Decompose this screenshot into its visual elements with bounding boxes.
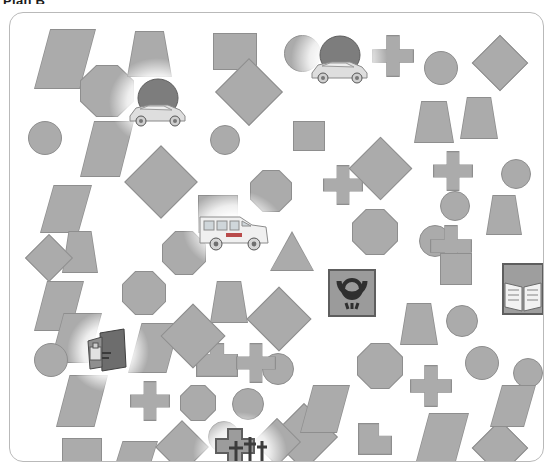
shape-circle (424, 51, 458, 85)
shape-circle (440, 191, 470, 221)
shape-octagon (122, 271, 166, 315)
shape-diamond (25, 234, 73, 282)
shape-cross (130, 381, 170, 421)
shape-field-panel (9, 12, 544, 462)
page-title: Plan B (3, 0, 45, 4)
post-horn-icon (326, 267, 378, 319)
target-ambulance[interactable] (183, 190, 285, 270)
target-post-sign[interactable] (313, 254, 391, 332)
shape-octagon (357, 343, 403, 389)
shape-circle (34, 343, 68, 377)
shape-octagon (352, 209, 398, 255)
shape-trapezoid (460, 97, 498, 139)
shape-circle (513, 358, 543, 388)
shape-circle (28, 121, 62, 155)
shape-cross (433, 151, 473, 191)
shape-diamond (124, 145, 198, 219)
target-machine[interactable] (67, 310, 149, 392)
target-cemetery[interactable] (193, 412, 287, 462)
shape-trapezoid (400, 303, 438, 345)
shape-trapezoid (486, 195, 522, 235)
target-car-top[interactable] (291, 16, 387, 102)
car-icon (304, 29, 374, 89)
machine-icon (80, 323, 136, 379)
shape-circle (501, 159, 531, 189)
shape-trapezoid (414, 101, 454, 143)
target-book[interactable] (484, 248, 544, 330)
shape-circle (210, 125, 240, 155)
car-icon (122, 71, 192, 133)
shape-trapezoid (210, 281, 248, 323)
shape-parallelogram (110, 441, 158, 462)
shape-parallelogram (490, 385, 536, 427)
shape-square (293, 121, 325, 151)
shape-diamond (472, 35, 529, 92)
shape-cross (410, 365, 452, 407)
shape-parallelogram (300, 385, 350, 433)
shape-parallelogram (40, 185, 92, 233)
open-book-icon (497, 261, 544, 317)
ambulance-icon (196, 203, 272, 257)
shape-square (62, 438, 102, 462)
shape-octagon (180, 385, 216, 421)
shape-diamond (246, 286, 311, 351)
crosses-icon (206, 425, 274, 462)
target-car-left[interactable] (109, 58, 205, 146)
shape-circle (465, 346, 499, 380)
shape-tee (358, 423, 392, 455)
shape-circle (446, 305, 478, 337)
shape-square (440, 253, 472, 285)
shape-parallelogram (415, 413, 469, 462)
